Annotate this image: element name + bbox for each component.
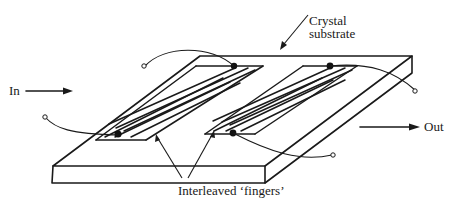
- fingers-pointer-arrows: [155, 130, 215, 178]
- input-top-terminal: [142, 64, 146, 68]
- output-arrow-head: [409, 124, 420, 131]
- substrate-side-face: [265, 56, 412, 183]
- substrate-front-face: [52, 166, 265, 183]
- saw-device-diagram: In Out Crystal substrate Interleaved ‘fi…: [0, 0, 454, 208]
- output-label: Out: [424, 119, 444, 134]
- substrate-top-face: [53, 56, 412, 166]
- output-transducer: [205, 63, 357, 137]
- finger: [131, 83, 240, 137]
- fingers-label: Interleaved ‘fingers’: [178, 183, 284, 198]
- input-bottom-contact: [114, 130, 121, 137]
- fingers-pointer-left: [157, 137, 182, 178]
- output-bottom-wire: [233, 133, 332, 157]
- substrate-label-line2: substrate: [309, 26, 355, 41]
- output-arrow: [360, 124, 420, 131]
- input-arrow-head: [63, 88, 73, 95]
- input-bottom-terminal: [43, 115, 47, 119]
- output-bottom-terminal: [331, 153, 335, 157]
- substrate-pointer-arrow: [280, 15, 308, 50]
- finger: [226, 80, 333, 131]
- input-arrow: [26, 88, 73, 95]
- input-label: In: [9, 83, 20, 98]
- substrate-pointer-line: [284, 15, 308, 44]
- input-transducer: [96, 63, 263, 140]
- finger: [241, 80, 345, 131]
- fingers-pointer-right: [188, 133, 213, 178]
- finger: [230, 70, 352, 125]
- output-top-terminal: [413, 89, 417, 93]
